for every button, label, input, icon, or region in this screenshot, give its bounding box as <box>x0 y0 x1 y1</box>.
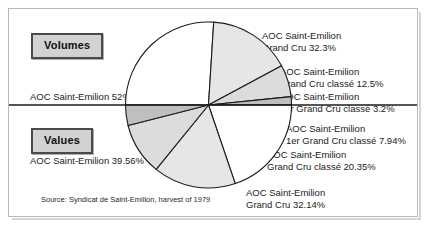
pie-slice <box>126 22 214 105</box>
pie-chart <box>0 0 439 233</box>
